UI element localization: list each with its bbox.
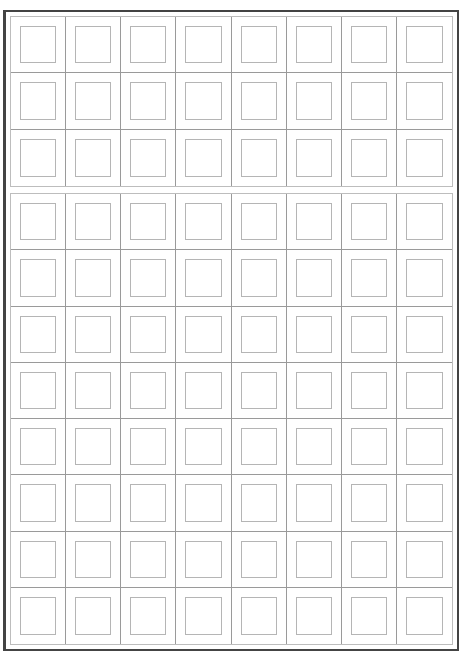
grid-cell (176, 73, 231, 129)
cell-square (241, 541, 277, 578)
cell-square (130, 203, 166, 240)
grid-cell (121, 588, 176, 644)
cell-square (406, 139, 443, 177)
grid-cell (66, 194, 121, 250)
cell-square (351, 26, 387, 63)
cell-square (296, 541, 332, 578)
cell-square (130, 428, 166, 465)
grid-cell (232, 130, 287, 186)
cell-square (351, 82, 387, 119)
cell-square (130, 82, 166, 119)
grid-cell (11, 363, 66, 419)
cell-square (185, 139, 221, 177)
cell-square (130, 372, 166, 409)
grid-cell (176, 419, 231, 475)
grid-cell (287, 475, 342, 531)
grid-cell (66, 250, 121, 306)
grid-cell (232, 419, 287, 475)
grid-cell (176, 130, 231, 186)
cell-square (241, 259, 277, 296)
grid-cell (397, 475, 452, 531)
cell-square (351, 139, 387, 177)
cell-square (75, 428, 111, 465)
cell-square (20, 372, 56, 409)
cell-square (20, 203, 56, 240)
grid-cell (176, 17, 231, 73)
cell-square (406, 26, 443, 63)
cell-square (20, 139, 56, 177)
grid-cell (287, 17, 342, 73)
cell-square (20, 428, 56, 465)
grid-cell (66, 307, 121, 363)
grid-cell (287, 588, 342, 644)
grid-cell (232, 194, 287, 250)
cell-square (351, 203, 387, 240)
cell-square (185, 541, 221, 578)
grid-cell (232, 73, 287, 129)
grid-cell (342, 250, 397, 306)
grid-cell (342, 17, 397, 73)
grid-cell (232, 475, 287, 531)
grid-cell (121, 419, 176, 475)
grid-cell (397, 250, 452, 306)
cell-square (75, 316, 111, 353)
cell-square (406, 316, 443, 353)
grid-cell (287, 194, 342, 250)
grid-cell (176, 307, 231, 363)
cell-square (20, 82, 56, 119)
grid-cell (176, 588, 231, 644)
cell-square (351, 597, 387, 635)
cell-square (351, 372, 387, 409)
grid-cell (232, 17, 287, 73)
grid-cell (397, 363, 452, 419)
cell-square (241, 597, 277, 635)
grid-cell (11, 130, 66, 186)
grid-cell (121, 307, 176, 363)
grid-cell (232, 307, 287, 363)
grid-cell (11, 419, 66, 475)
cell-square (406, 484, 443, 521)
cell-square (296, 203, 332, 240)
cell-square (130, 259, 166, 296)
cell-square (75, 259, 111, 296)
grid-cell (66, 419, 121, 475)
grid-cell (66, 130, 121, 186)
cell-square (185, 82, 221, 119)
grid-cell (66, 475, 121, 531)
cell-square (296, 82, 332, 119)
cell-square (296, 428, 332, 465)
cell-square (406, 597, 443, 635)
cell-square (20, 259, 56, 296)
cell-square (75, 203, 111, 240)
cell-square (130, 597, 166, 635)
cell-square (20, 26, 56, 63)
cell-square (75, 484, 111, 521)
grid-cell (176, 532, 231, 588)
cell-square (185, 316, 221, 353)
grid-cell (342, 307, 397, 363)
grid-cell (397, 73, 452, 129)
cell-square (185, 484, 221, 521)
cell-square (20, 541, 56, 578)
grid-cell (342, 73, 397, 129)
grid-cell (121, 250, 176, 306)
grid-cell (121, 532, 176, 588)
grid-cell (397, 307, 452, 363)
grid-cell (287, 419, 342, 475)
cell-square (130, 139, 166, 177)
cell-square (296, 316, 332, 353)
cell-square (185, 259, 221, 296)
cell-square (75, 139, 111, 177)
grid-cell (66, 588, 121, 644)
top-block (10, 16, 453, 187)
grid-cell (397, 419, 452, 475)
cell-square (75, 82, 111, 119)
cell-square (185, 597, 221, 635)
cell-square (406, 259, 443, 296)
cell-square (241, 203, 277, 240)
grid-cell (287, 307, 342, 363)
cell-square (75, 26, 111, 63)
grid-cell (342, 475, 397, 531)
grid-cell (121, 475, 176, 531)
grid-cell (121, 194, 176, 250)
